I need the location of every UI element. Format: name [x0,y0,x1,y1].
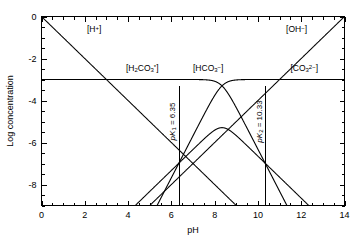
pk2-label: pK2 = 10.33 [255,100,264,144]
figure-background [0,0,356,238]
pk1-label: pK1 = 6.35 [168,102,177,141]
x-tick-label: 0 [39,210,44,220]
x-tick-label: 6 [169,210,174,220]
x-tick-label: 12 [296,210,306,220]
x-tick-label: 2 [82,210,87,220]
x-tick-label: 14 [339,210,349,220]
y-tick-label: -8 [28,180,36,190]
log-concentration-diagram: 02468101214 0-2-4-6-8 [H+][OH−][H2CO3*][… [0,0,356,238]
chart-canvas: 02468101214 0-2-4-6-8 [H+][OH−][H2CO3*][… [0,0,356,238]
y-tick-label: -6 [28,138,36,148]
y-tick-label: -4 [28,96,36,106]
y-tick-label: -2 [28,54,36,64]
species-label-hydroxide: [OH−] [286,24,307,34]
y-axis-title: Log concentration [5,75,15,147]
x-axis-title: pH [187,225,199,235]
species-label-proton: [H+] [87,24,101,34]
x-tick-label: 4 [126,210,131,220]
species-label-alpha0: [H2CO3*] [126,63,159,73]
y-tick-label: 0 [31,12,36,22]
x-tick-label: 8 [212,210,217,220]
x-tick-label: 10 [253,210,263,220]
